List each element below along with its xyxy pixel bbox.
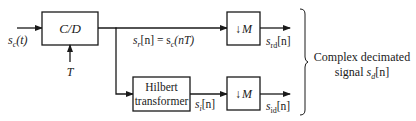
hilbert-label-line1: Hilbert — [145, 81, 178, 93]
downsampler-bottom-label: ↓M — [235, 87, 253, 101]
output-description-line2: signal sd[n] — [335, 65, 389, 81]
grouping-brace — [300, 9, 308, 115]
downsampler-top-label: ↓M — [235, 22, 253, 36]
output-description-line1: Complex decimated — [314, 50, 410, 64]
input-signal-label: sc(t) — [8, 33, 28, 49]
down-arrow-icon: ↓ — [235, 22, 241, 36]
down-arrow-icon: ↓ — [235, 87, 241, 101]
real-signal-label: sr[n] = sc(nT) — [133, 34, 194, 49]
branch-line — [116, 28, 133, 94]
sample-period-label: T — [67, 65, 75, 79]
hilbert-label-line2: transformer — [135, 95, 189, 107]
output-real-label: srd[n] — [266, 35, 291, 50]
cd-label: C/D — [59, 21, 81, 36]
imag-signal-label: si[n] — [195, 98, 215, 113]
output-imag-label: sid[n] — [266, 100, 290, 115]
decimation-block-diagram: sc(t) C/D T sr[n] = sc(nT) Hilbert trans… — [0, 0, 416, 121]
